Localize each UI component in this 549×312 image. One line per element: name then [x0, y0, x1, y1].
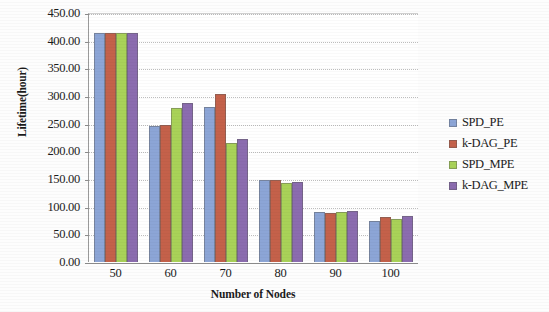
y-axis-tick-label: 200.00 — [47, 144, 80, 159]
y-axis-tick-label: 100.00 — [47, 199, 80, 214]
legend-color-swatch-icon — [449, 140, 457, 148]
y-axis-tick-label: 300.00 — [47, 89, 80, 104]
x-axis-tick-label: 80 — [258, 266, 304, 286]
bar-group — [149, 14, 193, 262]
bar — [270, 180, 281, 262]
x-axis-tick-label: 50 — [93, 266, 139, 286]
y-axis-tick-labels: 0.0050.00100.00150.00200.00250.00300.003… — [0, 0, 86, 312]
y-axis-tick-label: 50.00 — [53, 227, 80, 242]
legend-item-label: k-DAG_MPE — [462, 178, 528, 193]
bar-group — [314, 14, 358, 262]
bar-group — [259, 14, 303, 262]
bar-group — [204, 14, 248, 262]
legend-item: k-DAG_MPE — [449, 175, 549, 196]
bar — [402, 216, 413, 262]
bar — [347, 211, 358, 262]
legend-color-swatch-icon — [449, 182, 457, 190]
bar — [204, 107, 215, 262]
legend-item-label: SPD_PE — [462, 115, 503, 130]
legend-color-swatch-icon — [449, 161, 457, 169]
x-axis-title: Number of Nodes — [88, 288, 418, 300]
plot-area — [88, 13, 418, 262]
bar — [215, 94, 226, 262]
y-axis-tick-label: 250.00 — [47, 116, 80, 131]
bar — [259, 180, 270, 262]
x-axis-tick-label: 90 — [313, 266, 359, 286]
legend-item-label: SPD_MPE — [462, 157, 514, 172]
bar-groups — [89, 14, 418, 262]
bar — [127, 33, 138, 262]
bar — [171, 108, 182, 262]
bar-group — [94, 14, 138, 262]
bar — [237, 139, 248, 262]
legend-item: SPD_MPE — [449, 154, 549, 175]
bar — [281, 183, 292, 262]
bar — [336, 212, 347, 262]
bar — [380, 217, 391, 262]
bar — [94, 33, 105, 262]
y-axis-tick-label: 400.00 — [47, 33, 80, 48]
y-axis-tick-mark — [85, 263, 89, 264]
y-axis-tick-label: 0.00 — [59, 255, 80, 270]
y-axis-tick-label: 450.00 — [47, 6, 80, 21]
gridline — [89, 263, 418, 264]
bar — [292, 182, 303, 262]
bar — [391, 219, 402, 262]
x-axis-tick-label: 70 — [203, 266, 249, 286]
x-axis-tick-labels: 5060708090100 — [88, 266, 418, 286]
bar — [314, 212, 325, 262]
x-axis-tick-label: 100 — [368, 266, 414, 286]
bar — [149, 126, 160, 262]
y-axis-tick-label: 150.00 — [47, 172, 80, 187]
bar — [369, 221, 380, 263]
bar-chart-figure: Lifetime(hour) 0.0050.00100.00150.00200.… — [0, 0, 549, 312]
legend-item-label: k-DAG_PE — [462, 136, 517, 151]
bar — [182, 103, 193, 262]
y-axis-tick-label: 350.00 — [47, 61, 80, 76]
legend-color-swatch-icon — [449, 119, 457, 127]
bar — [105, 33, 116, 262]
legend-item: k-DAG_PE — [449, 133, 549, 154]
bar-group — [369, 14, 413, 262]
bar — [325, 213, 336, 262]
bar — [160, 125, 171, 262]
bar — [116, 33, 127, 262]
x-axis-tick-label: 60 — [148, 266, 194, 286]
bar — [226, 143, 237, 262]
legend: SPD_PEk-DAG_PESPD_MPEk-DAG_MPE — [449, 112, 549, 196]
legend-item: SPD_PE — [449, 112, 549, 133]
